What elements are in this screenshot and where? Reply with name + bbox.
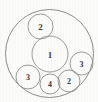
circle-2-top-label: 2 [38, 22, 43, 32]
circle-group-1: 1 [32, 36, 68, 72]
circle-packing-figure: 1 2 3 2 3 4 [0, 0, 98, 102]
circle-group-3-left: 3 [16, 65, 40, 89]
circle-group-4-bottom: 4 [40, 74, 60, 94]
circle-packing-canvas: 1 2 3 2 3 4 [0, 0, 98, 102]
circle-2-bottom-label: 2 [67, 77, 71, 86]
circle-3-right-label: 3 [80, 60, 84, 69]
circle-group-2-top: 2 [28, 14, 53, 39]
circle-3-left-label: 3 [26, 73, 30, 82]
circle-1-label: 1 [48, 50, 53, 60]
circle-4-bottom-label: 4 [48, 80, 52, 89]
circle-group-3-right: 3 [70, 52, 93, 75]
circle-group-2-bottom: 2 [58, 70, 80, 92]
